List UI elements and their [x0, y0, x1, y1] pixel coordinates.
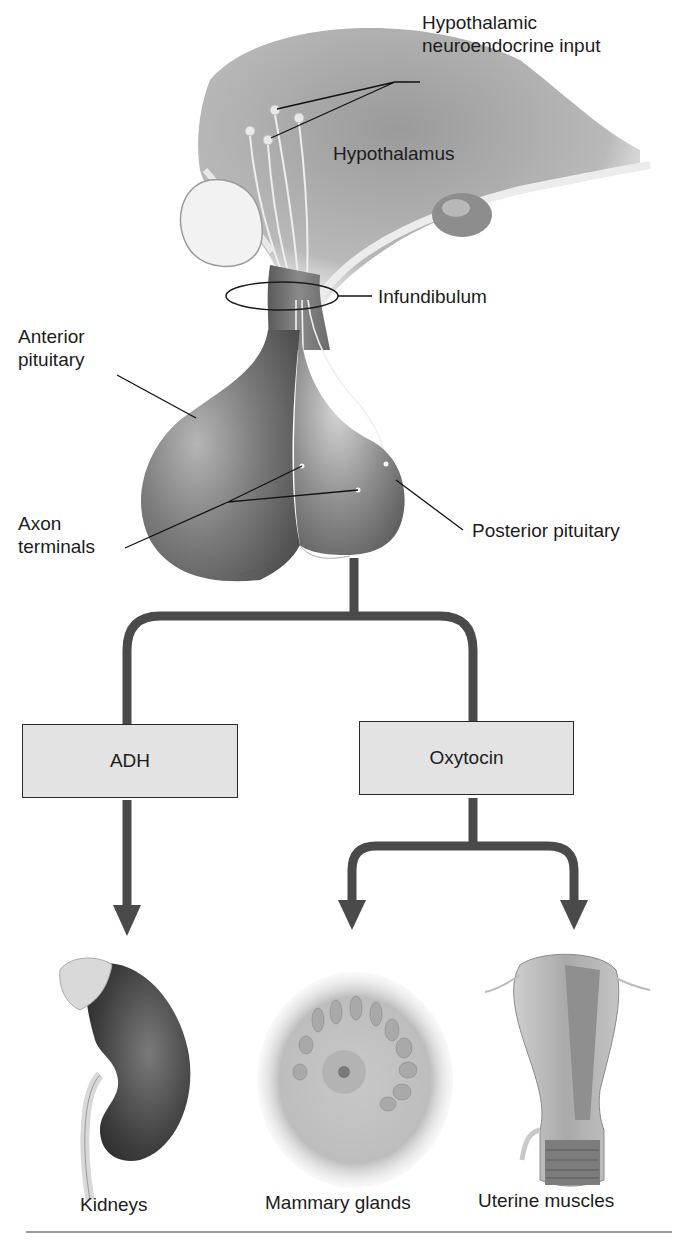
kidney-icon: [60, 958, 191, 1200]
label-mammary-glands: Mammary glands: [265, 1191, 411, 1214]
label-anterior-pituitary: Anterior pituitary: [18, 325, 85, 371]
arrow-to-kidneys-icon: [113, 905, 141, 936]
hormone-box-adh: ADH: [22, 724, 238, 798]
arrow-to-mammary-icon: [338, 900, 366, 930]
diagram-canvas: [0, 0, 686, 1243]
arrow-to-uterus-icon: [560, 900, 588, 930]
label-hypothalamic-input: Hypothalamic neuroendocrine input: [422, 11, 601, 57]
label-uterine-muscles: Uterine muscles: [478, 1189, 614, 1212]
label-hypothalamus: Hypothalamus: [333, 142, 454, 165]
label-infundibulum: Infundibulum: [378, 285, 487, 308]
label-posterior-pituitary: Posterior pituitary: [472, 519, 620, 542]
hormone-box-oxytocin: Oxytocin: [359, 721, 574, 795]
mammary-gland-icon: [257, 972, 453, 1188]
label-axon-terminals: Axon terminals: [18, 512, 95, 558]
arrowheads: [113, 900, 588, 936]
pituitary-gland-illustration: [141, 330, 405, 581]
hypothalamus-illustration: [180, 28, 650, 315]
label-kidneys: Kidneys: [80, 1193, 148, 1216]
uterus-icon: [485, 954, 650, 1186]
